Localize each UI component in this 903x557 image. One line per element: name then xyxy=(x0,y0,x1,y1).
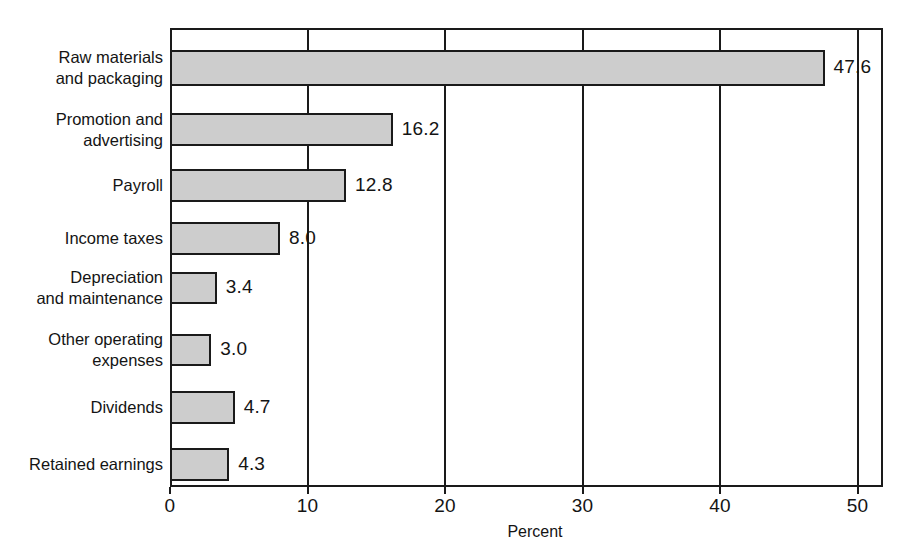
category-label: Promotion and advertising xyxy=(0,109,163,151)
bar-value-label: 16.2 xyxy=(402,119,440,139)
gridline-20 xyxy=(444,28,446,487)
bar-value-label: 8.0 xyxy=(289,228,316,248)
x-axis-tick-label-10: 10 xyxy=(278,495,338,517)
bar xyxy=(170,113,393,146)
gridline-40 xyxy=(719,28,721,487)
plot-frame xyxy=(170,28,883,487)
x-axis-tick-40 xyxy=(719,487,721,494)
x-axis-tick-20 xyxy=(444,487,446,494)
x-axis-tick-30 xyxy=(582,487,584,494)
x-axis-tick-0 xyxy=(169,487,171,494)
bar-value-label: 47.6 xyxy=(834,57,872,77)
category-label: Income taxes xyxy=(0,228,163,249)
bar xyxy=(170,272,217,304)
gridline-50 xyxy=(857,28,859,487)
x-axis-tick-50 xyxy=(857,487,859,494)
category-label: Retained earnings xyxy=(0,454,163,475)
category-label: Other operating expenses xyxy=(0,329,163,371)
bar xyxy=(170,169,346,202)
bar-value-label: 3.0 xyxy=(220,339,247,359)
bar xyxy=(170,391,235,424)
x-axis-tick-label-20: 20 xyxy=(415,495,475,517)
x-axis-tick-10 xyxy=(307,487,309,494)
x-axis-tick-label-40: 40 xyxy=(690,495,750,517)
x-axis-tick-label-50: 50 xyxy=(828,495,888,517)
bar xyxy=(170,448,229,481)
bar-value-label: 4.3 xyxy=(238,454,265,474)
category-label: Payroll xyxy=(0,175,163,196)
x-axis-title: Percent xyxy=(435,522,635,541)
x-axis-tick-label-0: 0 xyxy=(140,495,200,517)
bar-value-label: 3.4 xyxy=(226,277,253,297)
gridline-30 xyxy=(582,28,584,487)
category-label: Dividends xyxy=(0,397,163,418)
category-label: Depreciation and maintenance xyxy=(0,267,163,309)
bar-value-label: 12.8 xyxy=(355,175,393,195)
bar xyxy=(170,334,211,366)
bar-chart: 0102030405047.6Raw materials and packagi… xyxy=(0,0,903,557)
bar-value-label: 4.7 xyxy=(244,397,271,417)
category-label: Raw materials and packaging xyxy=(0,47,163,89)
bar xyxy=(170,50,825,86)
x-axis-tick-label-30: 30 xyxy=(553,495,613,517)
bar xyxy=(170,222,280,255)
gridline-10 xyxy=(307,28,309,487)
